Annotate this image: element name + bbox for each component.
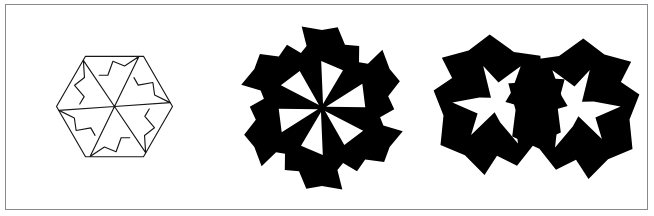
inscribed-pinwheel-outline [59,56,170,156]
figure-plate [0,0,654,216]
six-blade-pinwheel-shape [241,27,403,190]
figure-2-group [241,27,403,190]
figure-3-group [434,35,640,179]
figure-canvas [0,0,654,216]
figure-1-group [57,56,173,156]
